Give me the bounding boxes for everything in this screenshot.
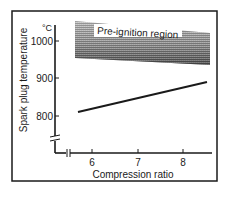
x-tick-label: 6 [89, 157, 95, 168]
temperature-line [78, 82, 207, 112]
y-unit: °C [42, 23, 53, 33]
y-axis-label: Spark plug temperature [18, 27, 29, 132]
x-tick-label: 7 [135, 157, 141, 168]
x-tick-label: 8 [180, 157, 186, 168]
y-tick-label: 800 [36, 111, 53, 122]
chart: Pre-ignition region 1000 900 800 °C Spar… [0, 0, 225, 204]
x-axis-label: Compression ratio [92, 169, 174, 180]
y-tick-label: 1000 [31, 36, 54, 47]
y-tick-label: 900 [36, 73, 53, 84]
